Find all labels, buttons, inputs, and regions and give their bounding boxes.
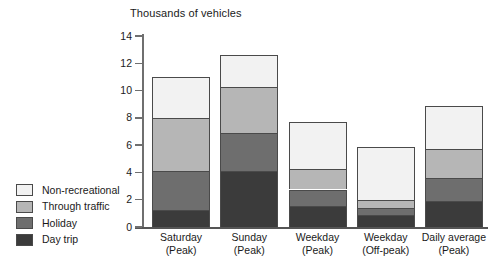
bar-segment [152, 118, 210, 171]
bar-segment [289, 169, 347, 189]
category-label-line1: Sunday [231, 231, 267, 243]
y-axis-tick [135, 117, 142, 118]
bar-3 [289, 36, 347, 227]
category-label-line2: (Peak) [147, 244, 215, 257]
category-label-line2: (Peak) [215, 244, 283, 257]
chart-legend: Non-recreationalThrough trafficHolidayDa… [16, 182, 126, 248]
bar-segment [220, 87, 278, 133]
category-label: Saturday(Peak) [147, 231, 215, 256]
bar-segment [220, 55, 278, 87]
bar-segment [425, 149, 483, 178]
category-label: Daily average(Peak) [420, 231, 488, 256]
bar-segment [289, 122, 347, 169]
y-axis-tick [135, 90, 142, 91]
legend-swatch-icon [16, 217, 33, 229]
legend-item-label: Day trip [42, 234, 78, 245]
y-axis-tick-label-text: 2 [126, 194, 132, 204]
category-label-line2: (Off-peak) [352, 244, 420, 257]
legend-item: Holiday [16, 215, 126, 232]
y-axis-tick-label-text: 8 [126, 112, 132, 122]
y-axis-tick-label-text: 14 [120, 31, 132, 41]
bar-1 [152, 36, 210, 227]
category-label: Weekday(Off-peak) [352, 231, 420, 256]
category-label: Weekday(Peak) [283, 231, 351, 256]
bar-segment [220, 133, 278, 171]
bar-segment [425, 178, 483, 201]
bar-segment [357, 208, 415, 216]
bar-4 [357, 36, 415, 227]
y-axis-tick-label-text: 6 [126, 140, 132, 150]
legend-swatch-icon [16, 201, 33, 213]
bar-segment [425, 106, 483, 150]
y-axis-tick [135, 63, 142, 64]
chart-title: Thousands of vehicles [130, 7, 242, 19]
bar-segment [152, 210, 210, 227]
y-axis-tick [135, 144, 142, 145]
bar-segment [357, 200, 415, 208]
y-axis-tick-label: 12 [110, 58, 132, 68]
y-axis-tick [135, 199, 142, 200]
legend-swatch-icon [16, 234, 33, 246]
y-axis-tick-label-text: 10 [120, 85, 132, 95]
y-axis-tick-label-text: 4 [126, 167, 132, 177]
legend-item-label: Through traffic [42, 201, 110, 212]
y-axis-line [142, 34, 144, 229]
bar-segment [289, 190, 347, 206]
bar-segment [152, 77, 210, 118]
legend-item: Day trip [16, 232, 126, 249]
category-label-line1: Daily average [422, 231, 486, 243]
bar-segment [220, 171, 278, 227]
category-label-line1: Weekday [364, 231, 408, 243]
category-label-line1: Saturday [160, 231, 202, 243]
bar-segment [357, 215, 415, 227]
category-label-line1: Weekday [296, 231, 340, 243]
legend-item: Through traffic [16, 199, 126, 216]
legend-swatch-icon [16, 184, 33, 196]
stacked-bar-chart: Thousands of vehicles 02468101214 Saturd… [0, 0, 489, 267]
y-axis-tick [135, 35, 142, 36]
y-axis-tick-label: 4 [110, 167, 132, 177]
y-axis-tick [135, 226, 142, 227]
legend-item-label: Non-recreational [42, 185, 120, 196]
y-axis-tick-label: 6 [110, 140, 132, 150]
bar-segment [425, 201, 483, 227]
legend-item-label: Holiday [42, 218, 77, 229]
bar-segment [152, 171, 210, 210]
y-axis-tick-label: 10 [110, 85, 132, 95]
y-axis-tick [135, 172, 142, 173]
category-label: Sunday(Peak) [215, 231, 283, 256]
y-axis-tick-label-text: 12 [120, 58, 132, 68]
bar-segment [357, 147, 415, 200]
x-axis-baseline [135, 227, 488, 229]
y-axis-tick-label: 14 [110, 31, 132, 41]
category-label-line2: (Peak) [420, 244, 488, 257]
bar-segment [289, 206, 347, 227]
y-axis-tick-label-text: 0 [126, 222, 132, 232]
bar-2 [220, 36, 278, 227]
category-label-line2: (Peak) [283, 244, 351, 257]
legend-item: Non-recreational [16, 182, 126, 199]
bar-5 [425, 36, 483, 227]
y-axis-tick-label: 8 [110, 112, 132, 122]
